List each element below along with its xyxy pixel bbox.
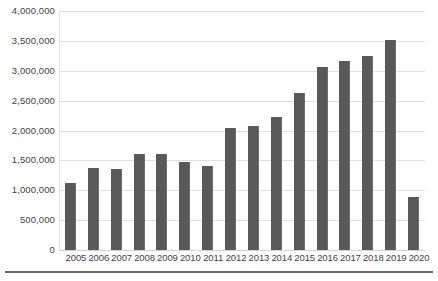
y-axis-tick-label: 3,500,000	[1, 36, 55, 46]
bar	[111, 169, 122, 250]
x-axis-tick-labels: 2005200620072008200920102011201220132014…	[59, 252, 425, 266]
y-axis-tick-label: 2,000,000	[1, 126, 55, 136]
bar	[225, 128, 236, 250]
y-axis-tick-label: 4,000,000	[1, 6, 55, 16]
bar	[271, 117, 282, 250]
gridline	[59, 250, 425, 251]
bar	[65, 183, 76, 250]
bar	[156, 154, 167, 250]
bar	[248, 126, 259, 250]
bar	[339, 61, 350, 250]
y-axis-tick-labels: 0500,0001,000,0001,500,0002,000,0002,500…	[0, 11, 55, 250]
bar-series	[59, 11, 425, 250]
bar	[385, 40, 396, 250]
bar-chart: 0500,0001,000,0001,500,0002,000,0002,500…	[0, 0, 438, 281]
x-axis-tick-label: 2020	[404, 252, 434, 264]
bar	[362, 56, 373, 250]
y-axis-tick-label: 0	[1, 245, 55, 255]
bar	[88, 168, 99, 250]
bar	[317, 67, 328, 250]
bar	[202, 166, 213, 250]
y-axis-tick-label: 500,000	[1, 215, 55, 225]
bar	[408, 197, 419, 250]
y-axis-tick-label: 1,500,000	[1, 155, 55, 165]
y-axis-tick-label: 1,000,000	[1, 185, 55, 195]
y-axis-tick-label: 2,500,000	[1, 96, 55, 106]
bar	[179, 162, 190, 250]
bar	[134, 154, 145, 250]
bar	[294, 93, 305, 250]
y-axis-tick-label: 3,000,000	[1, 66, 55, 76]
footer-rule	[5, 271, 433, 273]
